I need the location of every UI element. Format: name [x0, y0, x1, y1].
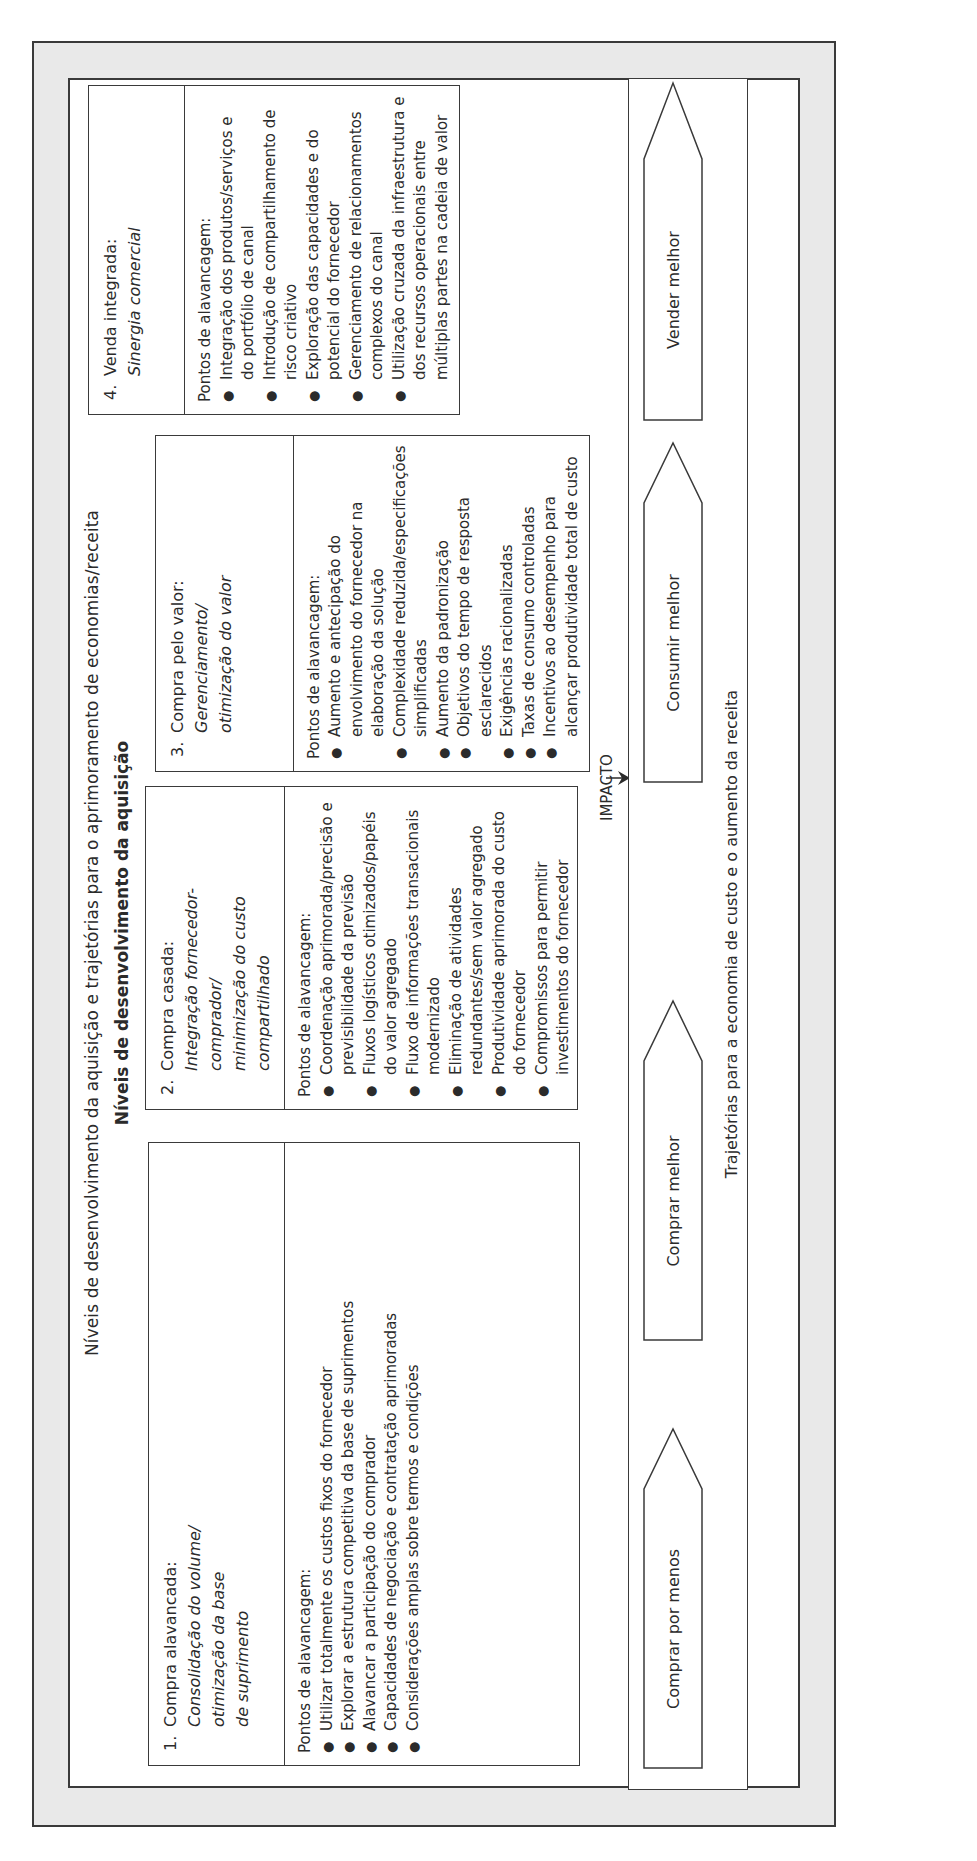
leverage-point: ●Produtividade aprimorada do custo do fo… — [489, 795, 532, 1097]
bullet-icon: ● — [454, 737, 497, 759]
bullet-icon: ● — [446, 1075, 489, 1097]
leverage-point: ●Objetivos do tempo de resposta esclarec… — [454, 444, 497, 759]
bullet-icon: ● — [403, 1075, 446, 1097]
level-body: Pontos de alavancagem: ●Aumento e anteci… — [294, 436, 590, 771]
level-box-4: 4. Venda integrada: Sinergia comercial P… — [88, 85, 460, 415]
leverage-label: Pontos de alavancagem: — [304, 444, 326, 759]
level-name: Compra pelo valor: — [166, 446, 190, 733]
bullet-icon: ● — [317, 1075, 360, 1097]
level-header: 4. Venda integrada: Sinergia comercial — [89, 86, 185, 414]
bullet-icon: ● — [217, 380, 260, 402]
level-name: Venda integrada: — [99, 96, 123, 376]
leverage-point: ●Coordenação aprimorada/precisão e previ… — [317, 795, 360, 1097]
leverage-point: ●Utilização cruzada da infraestrutura e … — [389, 94, 454, 402]
leverage-point: ●Exploração das capacidades e do potenci… — [303, 94, 346, 402]
bullet-icon: ● — [325, 737, 390, 759]
level-focus-line: Gerenciamento/ — [190, 446, 214, 733]
leverage-points: ●Integração dos produtos/serviços e do p… — [217, 94, 454, 402]
level-number: 1. — [159, 1727, 276, 1751]
leverage-point: ●Compromissos para permitir investimento… — [532, 795, 575, 1097]
level-focus-line: compartilhado — [252, 797, 276, 1071]
leverage-point: ●Exigências racionalizadas — [497, 444, 519, 759]
trajectory-arrow-1-label: Comprar por menos — [644, 1489, 702, 1769]
leverage-point: ●Gerenciamento de relacionamentos comple… — [346, 94, 389, 402]
level-body: Pontos de alavancagem: ●Utilizar totalme… — [285, 1143, 430, 1765]
bullet-icon: ● — [389, 380, 454, 402]
level-focus-line: Consolidação do volume/ — [183, 1153, 207, 1727]
bullet-icon: ● — [260, 380, 303, 402]
level-box-2: 2. Compra casada: Integração fornecedor-… — [145, 786, 578, 1110]
leverage-point: ●Explorar a estrutura competitiva da bas… — [338, 1151, 360, 1753]
leverage-point: ●Fluxo de informações transacionais mode… — [403, 795, 446, 1097]
trajectories-label: Trajetórias para a economia de custo e o… — [722, 78, 741, 1790]
level-body: Pontos de alavancagem: ●Integração dos p… — [185, 86, 459, 414]
leverage-point: ●Aumento e antecipação do envolvimento d… — [325, 444, 390, 759]
bullet-icon: ● — [540, 737, 583, 759]
bullet-icon: ● — [403, 1731, 425, 1753]
level-number: 4. — [99, 376, 176, 400]
level-focus-line: de suprimento — [231, 1153, 255, 1727]
leverage-label: Pontos de alavancagem: — [195, 94, 217, 402]
level-focus-line: otimização do valor — [214, 446, 238, 733]
leverage-point: ●Incentivos ao desempenho para alcançar … — [540, 444, 583, 759]
diagram-canvas: Níveis de desenvolvimento da aquisição e… — [0, 0, 977, 1861]
bullet-icon: ● — [303, 380, 346, 402]
leverage-points: ●Aumento e antecipação do envolvimento d… — [325, 444, 583, 759]
leverage-points: ●Utilizar totalmente os custos fixos do … — [317, 1151, 425, 1753]
bullet-icon: ● — [381, 1731, 403, 1753]
leverage-point: ●Integração dos produtos/serviços e do p… — [217, 94, 260, 402]
trajectory-arrow-3-label: Consumir melhor — [644, 503, 702, 783]
leverage-point: ●Introdução de compartilhamento de risco… — [260, 94, 303, 402]
leverage-point: ●Fluxos logísticos otimizados/papéis do … — [360, 795, 403, 1097]
level-name: Compra casada: — [156, 797, 180, 1071]
level-focus-line: Sinergia comercial — [123, 96, 147, 376]
bullet-icon: ● — [360, 1731, 382, 1753]
level-focus-line: Integração fornecedor-comprador/ — [180, 797, 228, 1071]
leverage-point: ●Aumento da padronização — [433, 444, 455, 759]
leverage-points: ●Coordenação aprimorada/precisão e previ… — [317, 795, 575, 1097]
level-number: 2. — [156, 1071, 276, 1095]
level-header: 3. Compra pelo valor: Gerenciamento/ oti… — [156, 436, 294, 771]
bullet-icon: ● — [346, 380, 389, 402]
bullet-icon: ● — [532, 1075, 575, 1097]
leverage-point: ●Complexidade reduzida/especificações si… — [390, 444, 433, 759]
bullet-icon: ● — [317, 1731, 339, 1753]
bullet-icon: ● — [519, 737, 541, 759]
trajectory-arrow-4-label: Vender melhor — [644, 159, 702, 421]
level-focus-line: otimização da base — [207, 1153, 231, 1727]
leverage-point: ●Considerações amplas sobre termos e con… — [403, 1151, 425, 1753]
level-box-1: 1. Compra alavancada: Consolidação do vo… — [148, 1142, 580, 1766]
leverage-label: Pontos de alavancagem: — [295, 1151, 317, 1753]
leverage-point: ●Utilizar totalmente os custos fixos do … — [317, 1151, 339, 1753]
level-name: Compra alavancada: — [159, 1153, 183, 1727]
trajectory-arrow-2-label: Comprar melhor — [644, 1061, 702, 1341]
level-number: 3. — [166, 733, 285, 757]
leverage-point: ●Eliminação de atividades redundantes/se… — [446, 795, 489, 1097]
level-header: 1. Compra alavancada: Consolidação do vo… — [149, 1143, 285, 1765]
level-box-3: 3. Compra pelo valor: Gerenciamento/ oti… — [155, 435, 590, 772]
level-focus-line: minimização do custo — [228, 797, 252, 1071]
bullet-icon: ● — [360, 1075, 403, 1097]
level-header: 2. Compra casada: Integração fornecedor-… — [146, 787, 285, 1109]
level-body: Pontos de alavancagem: ●Coordenação apri… — [285, 787, 581, 1109]
leverage-point: ●Taxas de consumo controladas — [519, 444, 541, 759]
leverage-label: Pontos de alavancagem: — [295, 795, 317, 1097]
bullet-icon: ● — [497, 737, 519, 759]
bullet-icon: ● — [489, 1075, 532, 1097]
leverage-point: ●Alavancar a participação do comprador — [360, 1151, 382, 1753]
bullet-icon: ● — [390, 737, 433, 759]
bullet-icon: ● — [433, 737, 455, 759]
bullet-icon: ● — [338, 1731, 360, 1753]
leverage-point: ●Capacidades de negociação e contratação… — [381, 1151, 403, 1753]
